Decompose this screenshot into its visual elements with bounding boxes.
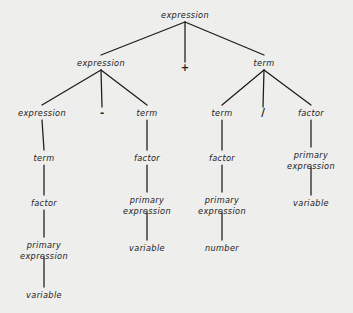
- tree-node-line: number: [205, 243, 239, 253]
- tree-node-line: term: [137, 108, 158, 118]
- tree-node-line: +: [181, 62, 189, 73]
- tree-node-line: term: [212, 108, 233, 118]
- node-layer: expressionexpression+termexpression-term…: [18, 10, 335, 300]
- tree-node-: +: [181, 62, 189, 73]
- tree-node-line: primary: [204, 195, 240, 205]
- tree-node-line: variable: [26, 290, 62, 300]
- tree-node-term: term: [137, 108, 158, 118]
- tree-node-primary-expression: primaryexpression: [20, 240, 68, 261]
- tree-node-line: -: [100, 107, 104, 118]
- tree-node-line: expression: [20, 251, 68, 261]
- tree-node-term: term: [34, 153, 55, 163]
- tree-node-primary-expression: primaryexpression: [123, 195, 171, 216]
- tree-node-line: factor: [134, 153, 160, 163]
- tree-node-expression: expression: [18, 108, 66, 118]
- tree-edge: [263, 70, 264, 107]
- tree-node-line: factor: [298, 108, 324, 118]
- tree-edge: [101, 70, 147, 105]
- tree-node-line: term: [34, 153, 55, 163]
- tree-edge: [101, 70, 102, 107]
- tree-node-term: term: [212, 108, 233, 118]
- tree-node-expression: expression: [77, 58, 125, 68]
- tree-node-variable: variable: [293, 198, 329, 208]
- tree-edge: [101, 22, 185, 55]
- parse-tree-canvas: expressionexpression+termexpression-term…: [0, 0, 353, 313]
- tree-node-factor: factor: [31, 198, 57, 208]
- tree-node-line: primary: [26, 240, 62, 250]
- tree-node-expression: expression: [161, 10, 209, 20]
- tree-node-line: term: [254, 58, 275, 68]
- tree-node-line: /: [261, 107, 265, 118]
- tree-node-line: expression: [198, 206, 246, 216]
- tree-edge: [185, 22, 264, 55]
- tree-node-line: expression: [161, 10, 209, 20]
- tree-edge: [222, 70, 264, 105]
- tree-node-line: factor: [31, 198, 57, 208]
- tree-node-factor: factor: [298, 108, 324, 118]
- tree-edge: [42, 70, 101, 105]
- tree-node-line: expression: [123, 206, 171, 216]
- tree-node-number: number: [205, 243, 239, 253]
- parse-tree-figure: expressionexpression+termexpression-term…: [0, 0, 353, 313]
- tree-node-factor: factor: [134, 153, 160, 163]
- tree-node-: /: [261, 107, 265, 118]
- tree-node--: -: [100, 107, 104, 118]
- tree-edge: [264, 70, 311, 105]
- tree-edge: [42, 120, 44, 150]
- tree-node-primary-expression: primaryexpression: [287, 150, 335, 171]
- tree-node-line: expression: [287, 161, 335, 171]
- tree-node-line: variable: [293, 198, 329, 208]
- tree-node-term: term: [254, 58, 275, 68]
- tree-node-line: expression: [77, 58, 125, 68]
- tree-node-line: expression: [18, 108, 66, 118]
- tree-node-factor: factor: [209, 153, 235, 163]
- tree-node-line: primary: [129, 195, 165, 205]
- tree-node-primary-expression: primaryexpression: [198, 195, 246, 216]
- tree-node-variable: variable: [26, 290, 62, 300]
- tree-node-line: primary: [293, 150, 329, 160]
- tree-node-line: factor: [209, 153, 235, 163]
- tree-node-line: variable: [129, 243, 165, 253]
- tree-node-variable: variable: [129, 243, 165, 253]
